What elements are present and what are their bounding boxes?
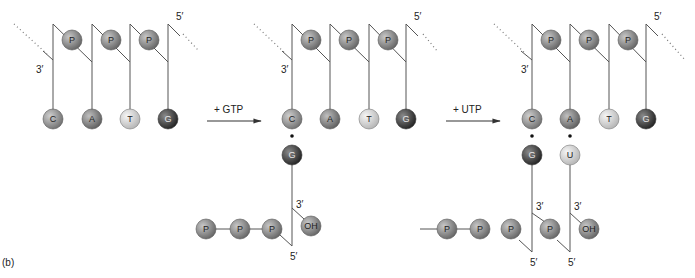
phosphate: P xyxy=(579,30,599,50)
svg-text:P: P xyxy=(269,224,275,234)
svg-text:G: G xyxy=(402,114,409,124)
strand-continuation-left xyxy=(254,24,286,54)
phosphate: P xyxy=(470,219,490,239)
base-a: A xyxy=(560,109,580,129)
base-t: T xyxy=(120,109,140,129)
base-c: C xyxy=(282,109,302,129)
phosphate: P xyxy=(62,30,82,50)
new-nucleotide-g: G 3′ 5′ P P P xyxy=(420,145,545,268)
base-c: C xyxy=(43,109,63,129)
svg-text:A: A xyxy=(327,114,333,124)
svg-text:P: P xyxy=(548,35,554,45)
svg-text:T: T xyxy=(366,114,372,124)
svg-text:G: G xyxy=(642,114,649,124)
label-3-prime: 3′ xyxy=(36,64,44,75)
figure-label: (b) xyxy=(2,257,14,268)
label-5-prime: 5′ xyxy=(530,257,538,268)
label-5-prime: 5′ xyxy=(568,257,576,268)
phosphate: P xyxy=(540,219,560,239)
svg-text:P: P xyxy=(586,35,592,45)
step-arrow-gtp: + GTP xyxy=(207,104,261,121)
phosphate: P xyxy=(262,219,282,239)
svg-text:OH: OH xyxy=(582,224,596,234)
new-nucleotide-u: U 3′ 5′ P OH xyxy=(540,145,599,268)
label-3-prime: 3′ xyxy=(296,199,304,210)
phosphate: P xyxy=(196,219,216,239)
svg-text:T: T xyxy=(127,114,133,124)
strand-continuation-left xyxy=(494,24,526,54)
svg-text:P: P xyxy=(508,224,514,234)
label-3-prime: 3′ xyxy=(521,64,529,75)
svg-text:P: P xyxy=(69,35,75,45)
strand-continuation-right xyxy=(183,34,198,50)
base-c: C xyxy=(522,109,542,129)
phosphate: P xyxy=(501,219,521,239)
phosphate: P xyxy=(339,30,359,50)
svg-text:OH: OH xyxy=(304,221,318,231)
svg-text:P: P xyxy=(385,35,391,45)
step-label: + UTP xyxy=(453,104,482,115)
base-pair-dot xyxy=(290,134,294,138)
hydroxyl: OH xyxy=(579,219,599,239)
svg-text:P: P xyxy=(346,35,352,45)
label-5-prime: 5′ xyxy=(414,11,422,22)
base-g: G xyxy=(158,109,178,129)
label-5-prime: 5′ xyxy=(290,251,298,262)
base-g: G xyxy=(636,109,656,129)
phosphate: P xyxy=(230,219,250,239)
label-3-prime: 3′ xyxy=(281,64,289,75)
new-nucleotide-g: G 3′ 5′ OH P P P xyxy=(196,145,321,262)
svg-text:P: P xyxy=(477,224,483,234)
rna-synthesis-diagram: 3′ 5′ P P P C A T G + GTP 3′ 5′ P P P C … xyxy=(0,0,695,278)
svg-text:A: A xyxy=(89,114,95,124)
svg-text:C: C xyxy=(50,114,57,124)
label-3-prime: 3′ xyxy=(574,201,582,212)
panel-template: 3′ 5′ P P P C A T G xyxy=(14,11,198,129)
svg-text:P: P xyxy=(237,224,243,234)
svg-text:G: G xyxy=(164,114,171,124)
phosphate: P xyxy=(618,30,638,50)
svg-text:P: P xyxy=(146,35,152,45)
svg-text:C: C xyxy=(289,114,296,124)
svg-text:T: T xyxy=(606,114,612,124)
svg-text:G: G xyxy=(528,150,535,160)
svg-text:P: P xyxy=(108,35,114,45)
svg-text:U: U xyxy=(567,150,574,160)
svg-text:P: P xyxy=(444,224,450,234)
phosphate: P xyxy=(437,219,457,239)
base-pair-dot xyxy=(530,134,534,138)
label-3-prime: 3′ xyxy=(536,201,544,212)
svg-text:P: P xyxy=(308,35,314,45)
base-t: T xyxy=(599,109,619,129)
svg-text:A: A xyxy=(567,114,573,124)
label-5-prime: 5′ xyxy=(176,11,184,22)
step-arrow-utp: + UTP xyxy=(446,104,500,121)
phosphate: P xyxy=(139,30,159,50)
phosphate: P xyxy=(101,30,121,50)
phosphate: P xyxy=(301,30,321,50)
panel-after-gtp: 3′ 5′ P P P C A T G G 3′ 5′ OH P P P xyxy=(196,11,438,262)
svg-text:P: P xyxy=(547,224,553,234)
label-5-prime: 5′ xyxy=(654,11,662,22)
base-a: A xyxy=(82,109,102,129)
svg-text:G: G xyxy=(288,150,295,160)
strand-continuation-left xyxy=(14,24,47,54)
base-t: T xyxy=(359,109,379,129)
strand-continuation-right xyxy=(662,34,685,60)
base-a: A xyxy=(320,109,340,129)
svg-text:P: P xyxy=(625,35,631,45)
hydroxyl: OH xyxy=(301,216,321,236)
phosphate: P xyxy=(541,30,561,50)
step-label: + GTP xyxy=(214,104,244,115)
strand-continuation-right xyxy=(423,34,438,52)
svg-text:P: P xyxy=(203,224,209,234)
base-g: G xyxy=(396,109,416,129)
base-pair-dot xyxy=(568,134,572,138)
panel-after-utp: 3′ 5′ P P P C A T G G 3′ 5′ P P P U 3′ 5… xyxy=(420,11,685,268)
phosphate: P xyxy=(378,30,398,50)
svg-text:C: C xyxy=(529,114,536,124)
